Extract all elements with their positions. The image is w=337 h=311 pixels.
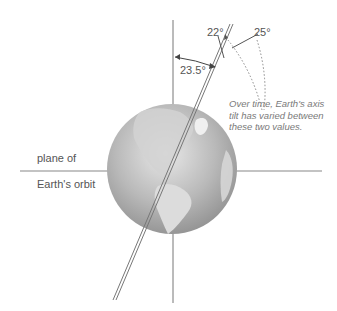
arrowhead-left-icon bbox=[175, 54, 180, 60]
plane-label-line2: Earth's orbit bbox=[37, 177, 95, 191]
tilt-max-label: 25° bbox=[254, 26, 271, 38]
plane-label-line1: plane of bbox=[37, 151, 76, 165]
tilt-min-label: 22° bbox=[207, 26, 224, 38]
tilt-note: Over time, Earth's axis tilt has varied … bbox=[229, 98, 329, 133]
tilt-current-label: 23.5° bbox=[180, 64, 206, 76]
